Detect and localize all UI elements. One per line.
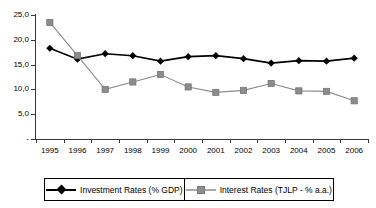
data-point-diamond — [268, 60, 275, 67]
data-point-square — [351, 98, 357, 104]
y-axis-tick — [31, 40, 36, 41]
data-point-square — [185, 84, 191, 90]
data-point-diamond — [102, 50, 109, 57]
chart-series-layer — [0, 0, 376, 208]
data-point-square — [74, 53, 80, 59]
y-axis-tick — [31, 139, 36, 140]
data-point-diamond — [295, 57, 302, 64]
legend-entry-investment: Investment Rates (% GDP) — [45, 179, 185, 200]
data-point-square — [47, 19, 53, 25]
data-point-diamond — [240, 55, 247, 62]
data-point-square — [157, 71, 163, 77]
data-point-square — [213, 89, 219, 95]
data-point-square — [102, 86, 108, 92]
data-point-diamond — [157, 58, 164, 65]
data-point-diamond — [323, 58, 330, 65]
legend-symbol-diamond-icon — [46, 185, 76, 195]
chart-figure: -5,010,015,020,025,0 1995199619971998199… — [0, 0, 376, 208]
legend-symbol-square-icon — [186, 185, 216, 195]
data-point-square — [130, 79, 136, 85]
data-point-square — [240, 87, 246, 93]
y-axis-tick — [31, 15, 36, 16]
data-point-diamond — [212, 52, 219, 59]
data-point-square — [268, 80, 274, 86]
legend-label-interest: Interest Rates (TJLP - % a.a.) — [220, 185, 332, 195]
data-point-square — [323, 88, 329, 94]
legend-entry-interest: Interest Rates (TJLP - % a.a.) — [185, 185, 333, 195]
data-point-diamond — [46, 45, 53, 52]
y-axis-tick — [31, 65, 36, 66]
data-point-square — [296, 88, 302, 94]
y-axis-tick — [31, 114, 36, 115]
data-point-diamond — [185, 53, 192, 60]
series-line — [50, 48, 354, 63]
data-point-diamond — [129, 52, 136, 59]
series-line — [50, 22, 354, 100]
chart-legend: Investment Rates (% GDP) Interest Rates … — [44, 178, 334, 201]
data-point-diamond — [351, 55, 358, 62]
y-axis-tick — [31, 89, 36, 90]
legend-label-investment: Investment Rates (% GDP) — [80, 185, 183, 195]
chart-series-investment — [46, 45, 358, 67]
